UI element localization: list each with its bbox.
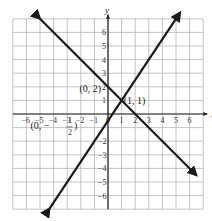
y-tick-label: −2	[98, 137, 107, 146]
x-tick-label: −6	[21, 116, 30, 125]
plotted-line	[50, 13, 181, 209]
y-tick-label: 1	[102, 96, 106, 105]
plotted-line	[40, 19, 196, 175]
svg-text:1: 1	[68, 116, 72, 125]
y-tick-label: −5	[98, 178, 107, 187]
y-tick-label: −4	[98, 164, 107, 173]
y-tick-label: 6	[102, 28, 106, 37]
label-point-1-1: (1, 1)	[124, 95, 146, 107]
x-tick-label: −4	[49, 116, 58, 125]
y-tick-label: 4	[102, 56, 106, 65]
x-tick-label: 6	[188, 116, 192, 125]
svg-text:(0, −: (0, −	[30, 120, 49, 132]
x-tick-label: −1	[89, 116, 98, 125]
svg-text:): )	[74, 120, 77, 132]
x-tick-label: 1	[120, 116, 124, 125]
y-tick-label: 3	[102, 69, 106, 78]
x-tick-label: 5	[174, 116, 178, 125]
coordinate-plane: xy −6−5−4−3−2−10123456−6−5−4−3−2123456 (…	[0, 0, 212, 221]
axes: xy	[13, 5, 212, 209]
label-point-0-2: (0, 2)	[79, 83, 101, 95]
y-tick-label: −6	[98, 192, 107, 201]
x-tick-label: 4	[160, 116, 164, 125]
x-tick-label: 2	[133, 116, 137, 125]
x-axis-label: x	[210, 109, 212, 119]
plotted-lines	[40, 13, 196, 209]
y-axis-label: y	[104, 5, 109, 15]
svg-text:2: 2	[68, 128, 72, 137]
y-tick-label: −3	[98, 151, 107, 160]
x-tick-label: 3	[147, 116, 151, 125]
y-tick-label: 5	[102, 42, 106, 51]
